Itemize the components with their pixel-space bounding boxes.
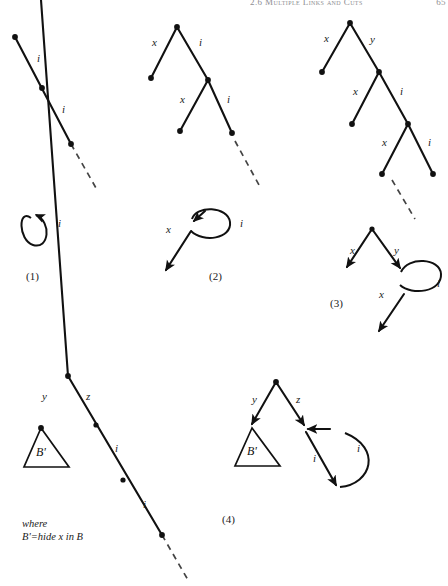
self-loop-arc xyxy=(21,215,46,246)
p3-node-leaf-2 xyxy=(349,121,355,127)
p4l-edge-z-chain xyxy=(68,376,162,535)
p2-label-x-1: x xyxy=(151,36,157,48)
p3-edge-dashed xyxy=(392,180,415,219)
p3-loop-label-x-2: x xyxy=(378,288,384,300)
panel-1-loop: i (1) xyxy=(21,215,61,283)
p4r-label-i-2: i xyxy=(357,442,360,454)
p3-edge-x-mid xyxy=(352,72,379,124)
chain-edge-dashed xyxy=(71,144,96,188)
p4l-label-y: y xyxy=(41,390,47,402)
p3-node-leaf-1 xyxy=(319,69,325,75)
p4l-triangle-bprime xyxy=(24,428,69,467)
p3-edge-x-left xyxy=(322,23,350,72)
p2-label-i-1: i xyxy=(199,36,202,48)
p4r-back-arc xyxy=(340,433,369,487)
p3-label-i-2: i xyxy=(428,136,431,148)
p4l-label-z: z xyxy=(85,390,91,402)
panel-2-loop: x i (2) xyxy=(165,209,243,283)
note-line-2: B'=hide x in B xyxy=(22,531,84,542)
p2-node-sub-right xyxy=(229,130,235,136)
caption-3: (3) xyxy=(330,297,343,310)
p4l-edge-dashed xyxy=(162,535,188,580)
chain-label-i-2: i xyxy=(62,103,65,115)
p3-node-leaf-3 xyxy=(379,171,385,177)
p4l-node-mid-2 xyxy=(120,477,125,482)
p3-edge-y-right xyxy=(350,23,379,72)
figure-page: 2.6 Multiple Links and Cuts 65 i i i (1) xyxy=(0,0,448,586)
self-loop-label-i: i xyxy=(58,217,61,229)
panel-1-chain: i i xyxy=(12,34,96,188)
p3-loop-arc xyxy=(400,261,441,291)
p4l-node-mid-1 xyxy=(93,422,98,427)
panel-4-right: y z B' i i (4) xyxy=(222,379,369,526)
p4r-arrow-i-down xyxy=(306,432,336,485)
panel-4-left: y z B' i i where B'=hide x in B xyxy=(22,0,188,580)
p3-edge-i-mid xyxy=(379,72,408,124)
p3-node-level2 xyxy=(376,69,382,75)
p4r-label-y: y xyxy=(251,393,257,405)
p3-node-level3 xyxy=(405,121,411,127)
p4r-label-z: z xyxy=(295,393,301,405)
caption-4: (4) xyxy=(222,513,235,526)
p2-node-sub-left xyxy=(177,128,183,134)
panel-3-loop: x y i x (3) xyxy=(330,226,441,331)
p3-node-leaf-4 xyxy=(430,171,436,177)
p2-edge-x-left xyxy=(151,27,177,78)
p3-label-i-1: i xyxy=(400,85,403,97)
p4l-label-bprime: B' xyxy=(36,445,46,459)
chain-node-root xyxy=(12,34,18,40)
p3-loop-label-y: y xyxy=(393,244,399,256)
p3-label-y-1: y xyxy=(369,33,375,45)
p2-label-x-2: x xyxy=(179,93,185,105)
p2-node-left-leaf xyxy=(148,75,154,81)
p4l-label-i-2: i xyxy=(143,498,146,510)
p3-label-x-2: x xyxy=(352,85,358,97)
chain-node-mid xyxy=(39,85,45,91)
p2-node-mid xyxy=(205,77,211,83)
p4l-node-bprime-apex xyxy=(38,425,44,431)
p2-node-root xyxy=(174,24,180,30)
panel-2-tree: x i x i xyxy=(148,24,259,185)
figure-svg: i i i (1) x i x i xyxy=(0,0,448,586)
chain-label-i-1: i xyxy=(37,52,40,64)
p3-label-x-3: x xyxy=(381,136,387,148)
p4r-triangle-bprime xyxy=(235,428,280,466)
chain-node-leaf xyxy=(68,141,74,147)
p2-edge-i-sub xyxy=(208,80,232,133)
p3-edge-x-low xyxy=(382,124,408,174)
p2-loop-x-arrow xyxy=(166,231,191,270)
p3-loop-label-i: i xyxy=(437,277,440,289)
p4r-node-root xyxy=(273,379,279,385)
p2-loop-label-i: i xyxy=(240,217,243,229)
p2-label-i-2: i xyxy=(227,93,230,105)
p2-loop-label-x: x xyxy=(165,223,171,235)
p2-loop-arc xyxy=(191,209,230,238)
p4l-node-leaf xyxy=(159,532,165,538)
note-line-1: where xyxy=(22,518,48,529)
p4l-edge-y xyxy=(41,0,68,376)
p2-edge-i-right xyxy=(177,27,208,80)
p4r-label-bprime: B' xyxy=(247,444,257,458)
p4l-label-i-1: i xyxy=(115,442,118,454)
p2-edge-dashed xyxy=(235,141,259,185)
caption-2: (2) xyxy=(209,270,222,283)
p3-edge-i-low xyxy=(408,124,433,174)
p3-loop-label-x-1: x xyxy=(349,244,355,256)
p3-loop-node-top xyxy=(369,226,374,231)
p4l-node-root xyxy=(65,373,71,379)
p4r-label-i-1: i xyxy=(313,452,316,464)
p3-node-root xyxy=(347,20,353,26)
p2-edge-x-sub xyxy=(180,80,208,131)
p3-label-x-1: x xyxy=(323,32,329,44)
panel-3-tree: x y x i x i xyxy=(319,20,436,219)
caption-1: (1) xyxy=(26,270,39,283)
